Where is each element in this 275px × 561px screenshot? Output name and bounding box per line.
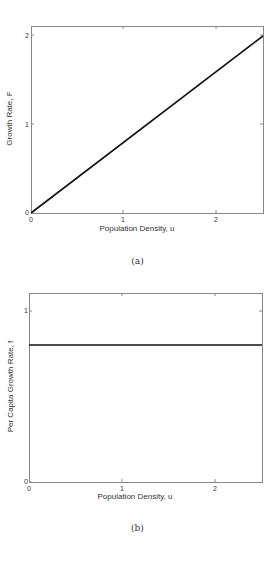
chart-b-xtick-0: 0 (27, 485, 31, 492)
chart-b: 0 1 0 1 2 Population Density, u Per Capi… (0, 0, 275, 561)
chart-b-xtick-1: 1 (120, 485, 124, 492)
chart-b-ytick-1: 1 (24, 307, 28, 314)
chart-b-xtick-2: 2 (213, 485, 217, 492)
chart-b-ylabel: Per Capita Growth Rate, f (6, 337, 15, 437)
chart-b-ytick-0: 0 (24, 478, 28, 485)
chart-b-caption: (b) (0, 523, 275, 533)
chart-b-xlabel: Population Density, u (85, 492, 185, 501)
chart-b-line (0, 0, 275, 561)
